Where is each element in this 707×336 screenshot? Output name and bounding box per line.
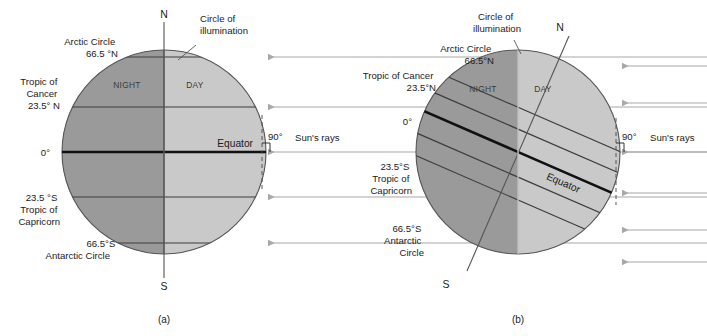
day-label-a: DAY <box>186 80 204 90</box>
coi-line-1-a: Circle of <box>200 13 236 24</box>
north-pole-label-a: N <box>160 8 168 20</box>
latitude-label-antarctic-circle-a: 66.5°S Antarctic Circle <box>45 238 118 261</box>
suns-rays-group-b <box>622 66 707 262</box>
latitude-label-equator-b: 0° <box>403 116 412 127</box>
suns-rays-label-a: Sun's rays <box>295 132 340 143</box>
panel-caption-b: (b) <box>512 314 524 325</box>
angle-label-a: 90° <box>268 131 283 142</box>
night-label-b: NIGHT <box>469 84 497 94</box>
south-pole-label-a: S <box>160 280 167 292</box>
north-pole-label-b: N <box>556 21 564 33</box>
circle-of-illumination-label-a: Circle of illumination <box>200 13 248 36</box>
figure-canvas: N S Circle of illumination NIGHT DAY Equ… <box>0 0 707 336</box>
day-label-b: DAY <box>534 84 552 94</box>
night-label-a: NIGHT <box>113 80 141 90</box>
latitude-label-tropic-of-cancer-a: Tropic of Cancer 23.5° N <box>20 76 60 111</box>
panel-caption-a: (a) <box>158 314 170 325</box>
latitude-label-tropic-of-capricorn-a: 23.5 °S Tropic of Capricorn <box>18 192 60 227</box>
coi-line-2-a: illumination <box>200 25 248 36</box>
earth-illumination-diagram: N S Circle of illumination NIGHT DAY Equ… <box>0 0 707 336</box>
panel-b: N S Circle of illumination NIGHT DAY Equ… <box>363 11 707 325</box>
equator-label-a: Equator <box>217 138 253 149</box>
latitude-label-arctic-circle-a: Arctic Circle 66.5 °N <box>64 36 118 59</box>
latitude-label-equator-a: 0° <box>41 147 50 158</box>
latitude-label-arctic-circle-b: Arctic Circle 66.5°N <box>440 43 494 66</box>
latitude-label-tropic-of-cancer-b: Tropic of Cancer 23.5°N <box>363 70 436 93</box>
angle-label-b: 90° <box>622 131 637 142</box>
suns-rays-label-b: Sun's rays <box>650 132 695 143</box>
latitude-label-tropic-of-capricorn-b: 23.5°S Tropic of Capricorn <box>370 161 412 196</box>
coi-line-2-b: illumination <box>473 23 521 34</box>
south-pole-label-b: S <box>442 278 449 290</box>
coi-line-1-b: Circle of <box>478 11 514 22</box>
circle-of-illumination-label-b: Circle of illumination <box>473 11 521 34</box>
latitude-label-antarctic-circle-b: 66.5°S Antarctic Circle <box>384 223 424 258</box>
